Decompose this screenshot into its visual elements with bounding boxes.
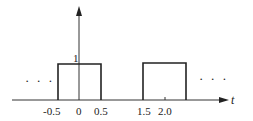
pulse-train-figure: 1 -0.5 0 0.5 1.5 2.0 t · · · · · · <box>0 0 253 121</box>
x-tick-15: 1.5 <box>137 105 151 117</box>
x-tick-neg05: -0.5 <box>43 105 61 117</box>
ellipsis-left: · · · <box>25 73 55 88</box>
t-axis-arrow-icon <box>219 97 229 103</box>
y-tick-1: 1 <box>73 52 79 64</box>
ellipsis-right: · · · <box>199 71 229 86</box>
x-tick-0: 0 <box>76 105 82 117</box>
pulse-2 <box>143 63 186 100</box>
x-tick-05: 0.5 <box>94 105 108 117</box>
t-axis-label: t <box>231 93 235 107</box>
x-tick-20: 2.0 <box>158 105 172 117</box>
y-axis-arrow-icon <box>76 6 82 16</box>
